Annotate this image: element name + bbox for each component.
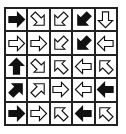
arrow-up-left-white-icon	[96, 57, 115, 76]
arrow-down-left-white-icon	[51, 34, 70, 53]
grid-cell[interactable]	[95, 78, 117, 101]
grid-cell[interactable]	[50, 55, 72, 78]
grid-cell[interactable]	[27, 55, 49, 78]
grid-cell[interactable]	[95, 102, 117, 125]
arrow-up-right-black-icon	[7, 80, 26, 99]
grid-cell[interactable]	[72, 78, 94, 101]
grid-cell[interactable]	[50, 102, 72, 125]
arrow-right-white-icon	[51, 80, 70, 99]
arrow-left-black-icon	[74, 104, 93, 123]
arrow-down-left-black-icon	[74, 34, 93, 53]
grid-cell[interactable]	[27, 102, 49, 125]
grid-cell[interactable]	[95, 31, 117, 54]
grid-cell[interactable]	[72, 31, 94, 54]
arrow-down-right-white-icon	[29, 57, 48, 76]
grid-cell[interactable]	[27, 78, 49, 101]
grid-cell[interactable]	[50, 8, 72, 31]
grid-cell[interactable]	[27, 31, 49, 54]
grid-cell[interactable]	[72, 55, 94, 78]
grid-cell[interactable]	[5, 55, 27, 78]
arrow-down-left-black-icon	[74, 10, 93, 29]
grid-cell[interactable]	[50, 78, 72, 101]
arrow-down-white-icon	[96, 10, 115, 29]
arrow-up-left-white-icon	[51, 104, 70, 123]
arrow-left-white-icon	[96, 34, 115, 53]
grid-cell[interactable]	[72, 8, 94, 31]
grid-cell[interactable]	[95, 55, 117, 78]
arrow-right-black-icon	[7, 10, 26, 29]
arrow-left-white-icon	[74, 57, 93, 76]
arrow-left-black-icon	[96, 80, 115, 99]
arrow-up-right-white-icon	[29, 80, 48, 99]
grid-cell[interactable]	[50, 31, 72, 54]
arrow-right-white-icon	[7, 34, 26, 53]
grid-cell[interactable]	[5, 8, 27, 31]
arrow-up-black-icon	[7, 57, 26, 76]
arrow-up-left-white-icon	[96, 104, 115, 123]
grid-cell[interactable]	[5, 31, 27, 54]
arrow-down-left-white-icon	[51, 10, 70, 29]
grid-cell[interactable]	[5, 78, 27, 101]
grid-cell[interactable]	[95, 8, 117, 31]
arrow-right-black-icon	[7, 104, 26, 123]
arrow-up-left-white-icon	[51, 57, 70, 76]
arrow-left-white-icon	[74, 80, 93, 99]
arrow-grid	[4, 7, 118, 126]
arrow-down-right-white-icon	[29, 10, 48, 29]
grid-cell[interactable]	[5, 102, 27, 125]
grid-cell[interactable]	[72, 102, 94, 125]
grid-cell[interactable]	[27, 8, 49, 31]
arrow-right-white-icon	[29, 34, 48, 53]
arrow-right-white-icon	[29, 104, 48, 123]
